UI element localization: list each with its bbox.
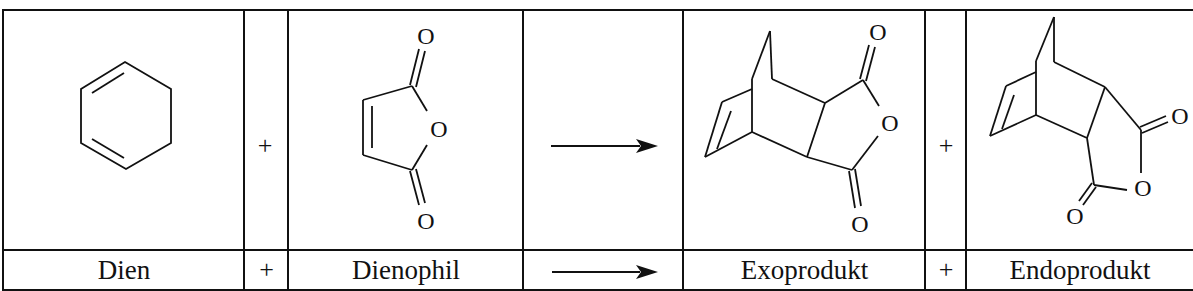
exo-structure	[705, 31, 879, 208]
plus-sign-2: +	[939, 131, 954, 160]
label-endoprodukt: Endoprodukt	[967, 251, 1193, 289]
label-plus-2: +	[926, 251, 966, 289]
exo-oxygen-top: O	[869, 19, 886, 45]
label-dien: Dien	[4, 251, 244, 289]
dienophil-oxygen-top: O	[417, 23, 434, 49]
label-exoprodukt: Exoprodukt	[684, 251, 925, 289]
plus-sign-1: +	[258, 131, 273, 160]
endo-oxygen-ring: O	[1134, 175, 1151, 201]
reaction-diagram: + O O O	[0, 0, 1193, 291]
endo-oxygen-bottom: O	[1066, 203, 1083, 229]
dienophil-oxygen-ring: O	[430, 116, 447, 142]
label-arrow	[552, 265, 658, 279]
label-dienophil: Dienophil	[289, 251, 523, 289]
exo-oxygen-bottom: O	[851, 211, 868, 237]
endo-oxygen-right: O	[1171, 103, 1188, 129]
dien-structure	[81, 62, 171, 169]
exo-oxygen-ring: O	[881, 110, 898, 136]
table-grid	[2, 10, 1193, 291]
label-plus-1: +	[245, 251, 288, 289]
dienophil-structure	[363, 49, 427, 205]
reaction-arrow	[551, 139, 658, 153]
dienophil-oxygen-bottom: O	[417, 208, 434, 234]
diels-alder-table: + O O O	[0, 0, 1193, 291]
